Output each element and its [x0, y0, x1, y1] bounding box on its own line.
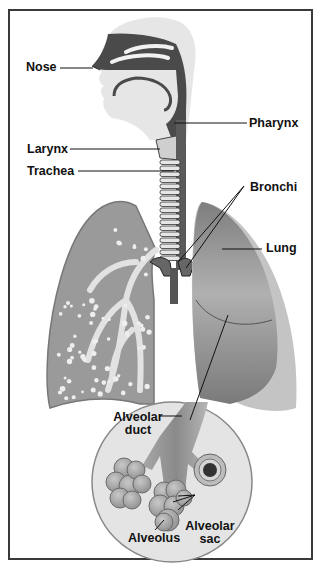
alveolar-dot: [80, 354, 85, 359]
trachea-ring: [160, 202, 180, 207]
left-lung: [47, 202, 156, 408]
alveolar-dot: [78, 314, 82, 318]
alveolar-dot: [67, 347, 72, 352]
alveolar-dot: [144, 272, 148, 276]
trachea-ring: [160, 244, 180, 249]
trachea-ring: [160, 190, 180, 195]
alveolar-dot: [144, 247, 148, 251]
alveolar-dot: [140, 327, 145, 332]
trachea-ring: [160, 160, 180, 165]
trachea-ring: [160, 196, 180, 201]
alveolar-dot: [138, 347, 141, 350]
alveolar-dot: [57, 353, 61, 357]
alveolar-dot: [141, 256, 146, 261]
alveolar-dot: [145, 384, 150, 389]
alveolar-dot: [89, 321, 93, 325]
alveolar-dot: [73, 335, 76, 338]
trachea-ring: [160, 166, 180, 171]
alveolar-dot: [107, 337, 111, 341]
alveolar-dot: [92, 339, 97, 344]
alveolar-dot: [125, 331, 129, 335]
alveolar-dot: [98, 391, 103, 396]
alveolar-dot: [108, 318, 111, 321]
alveolar-dot: [70, 356, 74, 360]
right-lung: [192, 202, 297, 411]
trachea-ring: [160, 238, 180, 243]
label-alveolar-sac: Alveolar sac: [184, 520, 236, 546]
label-trachea: Trachea: [27, 165, 74, 178]
alveolar-dot: [90, 312, 95, 317]
alveolar-dot: [92, 365, 97, 370]
alveolar-dot: [58, 390, 62, 394]
alveolar-dot: [145, 315, 150, 320]
alveolar-dot: [117, 374, 120, 377]
label-alveolar-sac-line2: sac: [184, 533, 236, 546]
alveolar-dot: [121, 391, 126, 396]
trachea-ring: [160, 250, 180, 255]
trachea: [156, 120, 186, 270]
alveolar-dot: [122, 321, 128, 327]
trachea-ring: [160, 226, 180, 231]
alveolar-dot: [94, 378, 98, 382]
alveolar-dot: [59, 312, 63, 316]
alveolar-dot: [133, 245, 137, 249]
alveolar-dot: [147, 330, 152, 335]
trachea-ring: [160, 172, 180, 177]
alveolar-dot: [78, 351, 81, 354]
label-larynx: Larynx: [27, 143, 68, 156]
alveolar-dot: [102, 317, 105, 320]
alveolar-dot: [70, 304, 73, 307]
alveolar-dot: [105, 366, 110, 371]
alveolar-dot: [89, 298, 95, 304]
alveolar-dot: [84, 359, 87, 362]
alveolar-dot: [67, 359, 72, 364]
alveolar-dot: [72, 395, 76, 399]
alveolar-dot: [141, 345, 146, 350]
label-alveolar-duct: Alveolar duct: [112, 411, 164, 437]
label-nose: Nose: [26, 61, 57, 74]
trachea-ring: [160, 184, 180, 189]
alveolar-dot: [91, 388, 96, 393]
alveolar-dot: [66, 301, 70, 305]
trachea-ring: [160, 214, 180, 219]
label-lung: Lung: [266, 242, 297, 255]
alveolar-dot: [107, 380, 110, 383]
alveolar-dot: [64, 376, 67, 379]
alveolar-dot: [102, 380, 107, 385]
label-alveolar-duct-line2: duct: [112, 424, 164, 437]
alveolar-dot: [81, 391, 84, 394]
alveolar-dot: [113, 228, 117, 232]
trachea-ring: [160, 208, 180, 213]
trachea-ring: [160, 232, 180, 237]
label-alveolus: Alveolus: [128, 532, 180, 545]
alveolar-dot: [64, 396, 68, 400]
alveolar-dot: [124, 304, 127, 307]
alveolar-dot: [116, 240, 121, 245]
trachea-ring: [160, 220, 180, 225]
trachea-ring: [160, 178, 180, 183]
alveolar-dot: [113, 376, 118, 381]
label-pharynx: Pharynx: [249, 117, 298, 130]
alveolar-dot: [93, 307, 97, 311]
label-bronchi: Bronchi: [250, 181, 297, 194]
alveolar-dot: [92, 351, 97, 356]
alveolar-dot: [128, 382, 132, 386]
alveolar-dot: [82, 303, 85, 306]
respiratory-diagram: [0, 0, 319, 567]
alveolar-dot: [63, 305, 66, 308]
bronchi: [150, 258, 194, 305]
alveolar-dot: [67, 379, 72, 384]
